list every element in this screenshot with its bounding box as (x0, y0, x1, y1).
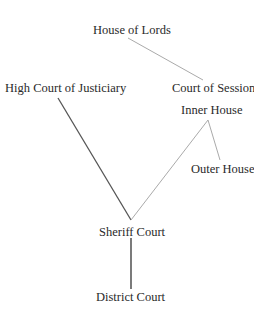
node-court-of-session: Court of Session (172, 82, 254, 95)
edge-inner-outer (208, 120, 220, 160)
court-hierarchy-diagram: House of Lords High Court of Justiciary … (0, 0, 254, 309)
node-inner-house: Inner House (181, 104, 242, 117)
node-outer-house: Outer House (191, 163, 254, 176)
edge-justiciary-sheriff (58, 98, 131, 220)
edge-lords-session (128, 38, 203, 80)
node-sheriff-court: Sheriff Court (99, 226, 165, 239)
node-district-court: District Court (96, 291, 165, 304)
node-house-of-lords: House of Lords (93, 24, 171, 37)
node-high-court-of-justiciary: High Court of Justiciary (5, 82, 126, 95)
connector-lines (0, 0, 254, 309)
